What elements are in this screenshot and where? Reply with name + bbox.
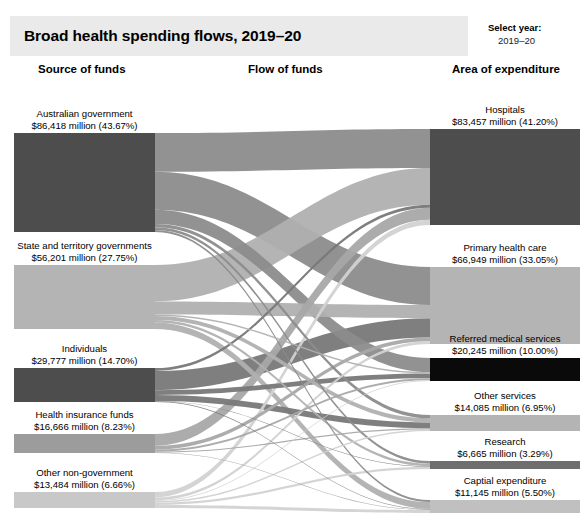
node-label-research: Research$6,665 million (3.29%)	[430, 436, 580, 459]
node-value: $86,418 million (43.67%)	[14, 120, 155, 132]
node-label-individuals: Individuals$29,777 million (14.70%)	[14, 343, 155, 366]
node-value: $83,457 million (41.20%)	[430, 116, 580, 128]
node-value: $6,665 million (3.29%)	[430, 448, 580, 460]
node-name: Captial expenditure	[430, 475, 580, 487]
sankey-node-other_services[interactable]	[430, 415, 580, 431]
node-value: $20,245 million (10.00%)	[430, 345, 580, 357]
sankey-node-referred[interactable]	[430, 358, 580, 381]
node-name: Research	[430, 436, 580, 448]
node-name: Other non-government	[14, 467, 155, 479]
node-name: Other services	[430, 390, 580, 402]
node-name: Referred medical services	[430, 333, 580, 345]
node-name: Hospitals	[430, 104, 580, 116]
node-value: $14,085 million (6.95%)	[430, 402, 580, 414]
sankey-node-other_nongov[interactable]	[14, 492, 155, 508]
node-label-primary: Primary health care$66,949 million (33.0…	[430, 242, 580, 265]
sankey-node-health_ins[interactable]	[14, 434, 155, 453]
node-name: Australian government	[14, 108, 155, 120]
sankey-page: Broad health spending flows, 2019–20 Sel…	[0, 0, 586, 524]
node-name: Primary health care	[430, 242, 580, 254]
sankey-node-aus_gov[interactable]	[14, 133, 155, 232]
node-name: Individuals	[14, 343, 155, 355]
sankey-link[interactable]	[155, 505, 430, 513]
node-label-other_nongov: Other non-government$13,484 million (6.6…	[14, 467, 155, 490]
sankey-link[interactable]	[155, 395, 430, 428]
node-label-other_services: Other services$14,085 million (6.95%)	[430, 390, 580, 413]
node-value: $11,145 million (5.50%)	[430, 487, 580, 499]
sankey-node-individuals[interactable]	[14, 368, 155, 402]
node-label-capital: Captial expenditure$11,145 million (5.50…	[430, 475, 580, 498]
node-label-state_gov: State and territory governments$56,201 m…	[14, 240, 155, 263]
sankey-link[interactable]	[155, 129, 430, 172]
node-label-aus_gov: Australian government$86,418 million (43…	[14, 108, 155, 131]
node-value: $66,949 million (33.05%)	[430, 254, 580, 266]
sankey-node-capital[interactable]	[430, 500, 580, 513]
node-name: State and territory governments	[14, 240, 155, 252]
sankey-node-research[interactable]	[430, 461, 580, 469]
node-value: $56,201 million (27.75%)	[14, 252, 155, 264]
node-label-referred: Referred medical services$20,245 million…	[430, 333, 580, 356]
sankey-node-state_gov[interactable]	[14, 265, 155, 329]
node-value: $13,484 million (6.66%)	[14, 479, 155, 491]
node-label-hospitals: Hospitals$83,457 million (41.20%)	[430, 104, 580, 127]
node-value: $16,666 million (8.23%)	[14, 421, 155, 433]
sankey-node-hospitals[interactable]	[430, 129, 580, 225]
node-label-health_ins: Health insurance funds$16,666 million (8…	[14, 409, 155, 432]
sankey-link[interactable]	[155, 301, 430, 318]
node-value: $29,777 million (14.70%)	[14, 355, 155, 367]
node-name: Health insurance funds	[14, 409, 155, 421]
